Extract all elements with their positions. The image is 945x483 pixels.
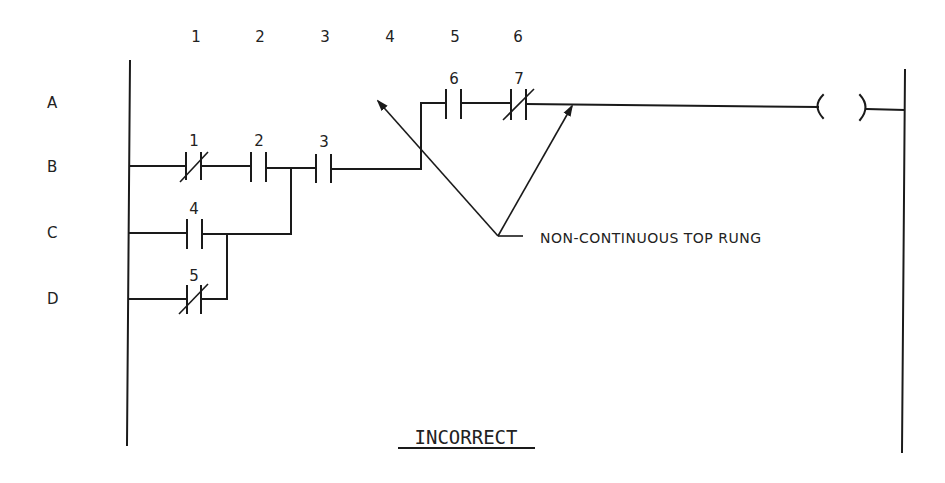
contact-1-label: 1 <box>189 132 199 150</box>
row-label-c: C <box>47 224 57 242</box>
arrow-right-icon <box>498 106 572 236</box>
row-labels: A B C D <box>47 94 59 308</box>
column-label-5: 5 <box>450 28 460 46</box>
annotation-label: NON-CONTINUOUS TOP RUNG <box>540 230 762 246</box>
contact-5-label: 5 <box>189 267 199 285</box>
contact-3-label: 3 <box>319 133 329 151</box>
diagram-caption: INCORRECT <box>415 426 518 448</box>
rung-c <box>130 233 291 299</box>
contact-7-label: 7 <box>514 70 524 88</box>
contact-2-label: 2 <box>254 132 264 150</box>
column-label-3: 3 <box>320 28 330 46</box>
column-label-4: 4 <box>385 28 395 46</box>
contact-3-normally-open: 3 <box>316 133 331 182</box>
contact-2-normally-open: 2 <box>251 132 266 181</box>
column-label-2: 2 <box>255 28 265 46</box>
contact-1-normally-closed: 1 <box>180 132 208 182</box>
contact-7-normally-closed: 7 <box>503 70 534 120</box>
contact-6-normally-open: 6 <box>446 70 461 118</box>
rung-b <box>130 166 421 234</box>
contact-4-normally-open: 4 <box>187 200 202 248</box>
row-label-d: D <box>47 290 59 308</box>
contact-4-label: 4 <box>189 200 199 218</box>
column-labels: 1 2 3 4 5 6 <box>191 28 523 46</box>
right-power-rail <box>902 70 905 452</box>
column-label-1: 1 <box>191 28 201 46</box>
ladder-diagram: 1 2 3 4 5 6 A B C D 1 2 3 <box>0 0 945 483</box>
row-label-b: B <box>47 158 57 176</box>
contact-6-label: 6 <box>449 70 459 88</box>
column-label-6: 6 <box>513 28 523 46</box>
output-coil <box>818 95 905 120</box>
top-rung-riser <box>421 103 818 169</box>
contact-5-normally-closed: 5 <box>179 267 208 314</box>
left-power-rail <box>127 61 130 445</box>
row-label-a: A <box>47 94 58 112</box>
